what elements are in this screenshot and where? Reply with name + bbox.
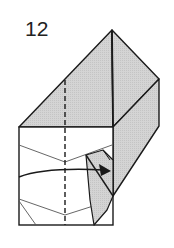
top-left-face (19, 30, 113, 127)
origami-diagram (0, 0, 174, 248)
top-center-edge (112, 30, 113, 127)
